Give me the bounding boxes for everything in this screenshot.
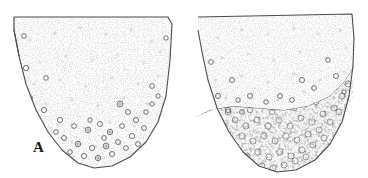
panel-b: B [184, 0, 368, 178]
panel-a-graphic [0, 0, 184, 178]
figure-root: A [0, 0, 368, 178]
panel-b-graphic [184, 0, 368, 178]
panel-a: A [0, 0, 184, 178]
panel-label-a: A [33, 140, 44, 155]
